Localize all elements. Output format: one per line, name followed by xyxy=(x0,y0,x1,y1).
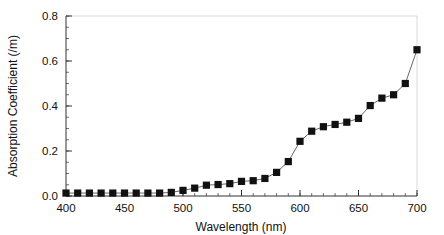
x-tick-label: 600 xyxy=(290,202,309,214)
data-point-marker xyxy=(332,121,339,128)
y-tick-label: 0.6 xyxy=(42,55,58,67)
data-point-marker xyxy=(168,189,175,196)
data-point-marker xyxy=(215,181,222,188)
data-point-marker xyxy=(86,189,93,196)
x-tick-label: 650 xyxy=(349,202,368,214)
chart-canvas: 400450500550600650700 0.00.20.40.60.8 Wa… xyxy=(0,0,444,235)
data-point-marker xyxy=(308,128,315,135)
data-point-marker xyxy=(121,189,128,196)
data-point-marker xyxy=(179,187,186,194)
data-point-marker xyxy=(343,119,350,126)
x-tick-label: 500 xyxy=(173,202,192,214)
x-axis-title: Wavelength (nm) xyxy=(196,220,287,234)
y-tick-label: 0.2 xyxy=(42,145,58,157)
data-point-marker xyxy=(226,180,233,187)
data-point-marker xyxy=(203,182,210,189)
data-point-marker xyxy=(98,189,105,196)
data-point-marker xyxy=(62,189,69,196)
data-point-marker xyxy=(413,46,420,53)
data-point-marker xyxy=(133,189,140,196)
data-point-marker xyxy=(250,177,257,184)
data-point-marker xyxy=(285,158,292,165)
data-point-marker xyxy=(191,185,198,192)
x-tick-label: 400 xyxy=(56,202,75,214)
data-point-marker xyxy=(273,169,280,176)
data-point-marker xyxy=(144,189,151,196)
x-tick-label: 550 xyxy=(232,202,251,214)
y-tick-label: 0.0 xyxy=(42,190,58,202)
data-point-marker xyxy=(367,102,374,109)
data-point-marker xyxy=(296,138,303,145)
x-tick-label: 450 xyxy=(115,202,134,214)
absorption-spectrum-chart: 400450500550600650700 0.00.20.40.60.8 Wa… xyxy=(0,0,444,235)
data-point-marker xyxy=(402,80,409,87)
data-point-marker xyxy=(390,91,397,98)
data-point-marker xyxy=(320,123,327,130)
data-point-marker xyxy=(74,189,81,196)
y-tick-label: 0.4 xyxy=(42,100,59,112)
data-point-marker xyxy=(156,189,163,196)
data-point-marker xyxy=(355,115,362,122)
x-tick-label: 700 xyxy=(407,202,426,214)
y-axis-title: Absorption Coefficient (/m) xyxy=(6,35,20,177)
y-tick-label: 0.8 xyxy=(42,10,58,22)
data-point-marker xyxy=(238,178,245,185)
data-point-marker xyxy=(261,175,268,182)
data-point-marker xyxy=(378,95,385,102)
data-point-marker xyxy=(109,189,116,196)
